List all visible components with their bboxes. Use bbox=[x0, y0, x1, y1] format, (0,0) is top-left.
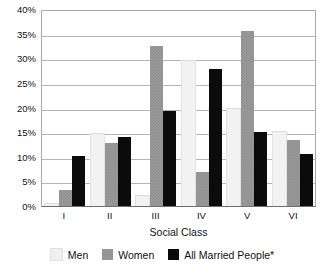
bar-men-ii[interactable] bbox=[90, 133, 105, 206]
bar-men-v[interactable] bbox=[226, 108, 241, 207]
bar-all-iv[interactable] bbox=[209, 69, 222, 206]
bar-men-i[interactable] bbox=[44, 203, 59, 206]
y-axis-tick-label: 15% bbox=[17, 128, 36, 138]
legend-item-all[interactable]: All Married People* bbox=[168, 249, 274, 261]
bar-women-i[interactable] bbox=[59, 190, 72, 206]
bar-women-ii[interactable] bbox=[105, 143, 118, 206]
bar-women-v[interactable] bbox=[241, 31, 254, 206]
y-axis-tick-label: 30% bbox=[17, 54, 36, 64]
x-axis-title: Social Class bbox=[41, 226, 316, 238]
bar-men-iii[interactable] bbox=[135, 195, 150, 206]
bar-chart: 0%5%10%15%20%25%30%35%40% IIIIIIIVVVI So… bbox=[0, 0, 324, 273]
legend-swatch-women-icon bbox=[102, 249, 113, 260]
bar-men-vi[interactable] bbox=[272, 131, 287, 206]
x-axis-tick-label: VI bbox=[270, 208, 316, 225]
bar-all-iii[interactable] bbox=[163, 111, 176, 206]
y-axis-tick-label: 10% bbox=[17, 153, 36, 163]
y-axis-tick-label: 40% bbox=[17, 5, 36, 15]
bar-group-vi bbox=[270, 11, 316, 206]
y-axis-tick-label: 25% bbox=[17, 79, 36, 89]
y-axis-tick-label: 20% bbox=[17, 104, 36, 114]
bar-all-ii[interactable] bbox=[118, 137, 131, 206]
x-axis-tick-label: IV bbox=[178, 208, 224, 225]
x-axis-tick-label: V bbox=[224, 208, 270, 225]
y-axis-tick-label: 0% bbox=[22, 202, 36, 212]
x-axis-tick-label: I bbox=[41, 208, 87, 225]
bar-women-iv[interactable] bbox=[196, 172, 209, 206]
legend-label: Men bbox=[68, 249, 88, 261]
bar-men-iv[interactable] bbox=[181, 60, 196, 206]
chart-legend: MenWomenAll Married People* bbox=[0, 248, 324, 261]
plot-area bbox=[41, 10, 316, 207]
bar-all-i[interactable] bbox=[72, 156, 85, 206]
bar-women-vi[interactable] bbox=[287, 140, 300, 206]
bar-group-ii bbox=[88, 11, 134, 206]
bar-group-i bbox=[42, 11, 88, 206]
legend-label: Women bbox=[118, 249, 154, 261]
x-axis: IIIIIIIVVVI bbox=[41, 208, 316, 225]
bar-women-iii[interactable] bbox=[150, 46, 163, 206]
legend-swatch-men-icon bbox=[50, 248, 63, 261]
bar-groups bbox=[42, 11, 315, 206]
bar-all-v[interactable] bbox=[254, 132, 267, 206]
bar-all-vi[interactable] bbox=[300, 154, 313, 206]
bar-group-iv bbox=[179, 11, 225, 206]
bar-group-iii bbox=[133, 11, 179, 206]
x-axis-tick-label: III bbox=[133, 208, 179, 225]
bar-group-v bbox=[224, 11, 270, 206]
legend-label: All Married People* bbox=[184, 249, 274, 261]
x-axis-tick-label: II bbox=[87, 208, 133, 225]
legend-swatch-all-icon bbox=[168, 249, 179, 260]
legend-item-men[interactable]: Men bbox=[50, 248, 88, 261]
y-axis: 0%5%10%15%20%25%30%35%40% bbox=[0, 0, 36, 214]
y-axis-tick-label: 35% bbox=[17, 30, 36, 40]
legend-item-women[interactable]: Women bbox=[102, 249, 154, 261]
y-axis-tick-label: 5% bbox=[22, 177, 36, 187]
